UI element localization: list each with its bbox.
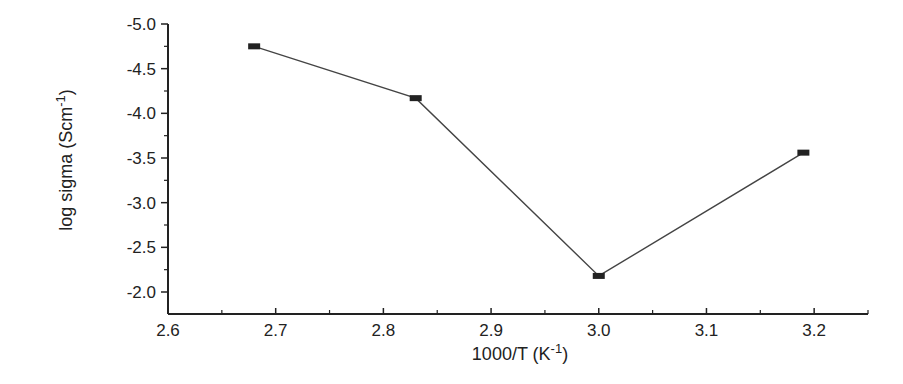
y-tick-label: -3.5 [127,149,156,168]
line-chart: -5.0-4.5-4.0-3.5-3.0-2.5-2.02.62.72.82.9… [0,0,903,384]
x-tick-label: 3.1 [695,321,719,340]
y-tick-label: -4.5 [127,60,156,79]
x-tick-label: 2.7 [264,321,288,340]
x-tick-label: 2.6 [156,321,180,340]
x-tick-label: 2.8 [372,321,396,340]
x-axis-title: 1000/T (K-1) [472,341,568,364]
x-tick-label: 3.2 [802,321,826,340]
x-tick-label: 3.0 [587,321,611,340]
y-tick-label: -5.0 [127,15,156,34]
x-tick-label: 2.9 [479,321,503,340]
data-line [254,46,803,276]
data-point-marker [248,43,260,49]
data-point-marker [410,95,422,101]
plot-area [248,43,809,279]
data-point-marker [593,273,605,279]
y-tick-label: -2.5 [127,238,156,257]
y-tick-label: -4.0 [127,104,156,123]
y-tick-label: -3.0 [127,194,156,213]
y-tick-label: -2.0 [127,283,156,302]
data-point-marker [797,150,809,156]
y-axis-title: log sigma (Scm-1) [53,89,76,231]
